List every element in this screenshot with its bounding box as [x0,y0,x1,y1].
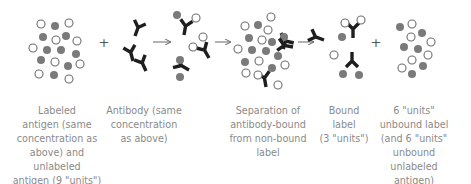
binding-diagram: + [0,0,471,104]
binding-group [173,11,214,81]
antibody-group [123,20,151,74]
caption-mixture: Labeled antigen (same concentration as a… [12,104,102,184]
caption-unbound: 6 "units" unbound label (and 6 "units" u… [372,104,456,184]
plus-operator-1: + [99,35,110,50]
plus-operator-2: + [371,35,382,50]
bound-group [308,16,365,79]
separation-group [234,13,294,89]
unbound-group [396,20,435,78]
caption-bound: Bound label (3 "units") [316,104,372,146]
caption-separation: Separation of antibody-bound from non-bo… [228,104,308,160]
caption-antibody: Antibody (same concentration as above) [104,104,184,146]
mixture-group [29,19,84,83]
